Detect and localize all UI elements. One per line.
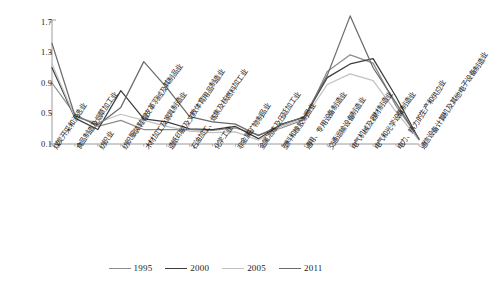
legend-line-swatch [165, 268, 187, 269]
y-tick-label: 0.9 [26, 79, 52, 88]
legend-item-2000[interactable]: 2000 [165, 263, 209, 273]
x-axis: 煤炭开采和洗选业食品制造及烟草加工业纺织业纺织服装鞋帽皮革羽绒及其制品业木材加工… [0, 146, 431, 251]
chart-legend: 1995200020052011 [0, 259, 431, 277]
legend-label: 1995 [134, 263, 153, 273]
legend-label: 2005 [247, 263, 266, 273]
y-tick-label: 1.3 [26, 48, 52, 57]
legend-label: 2000 [190, 263, 209, 273]
legend-line-swatch [222, 268, 244, 269]
legend-item-2011[interactable]: 2011 [279, 263, 322, 273]
y-tick-label: 1.7 [26, 18, 52, 27]
legend-item-2005[interactable]: 2005 [222, 263, 266, 273]
legend-label: 2011 [304, 263, 322, 273]
legend-line-swatch [279, 268, 301, 269]
y-tick-label: 0.5 [26, 109, 52, 118]
y-axis: 1.71.30.90.50.1 [22, 0, 52, 150]
legend-line-swatch [109, 268, 131, 269]
legend-item-1995[interactable]: 1995 [109, 263, 153, 273]
